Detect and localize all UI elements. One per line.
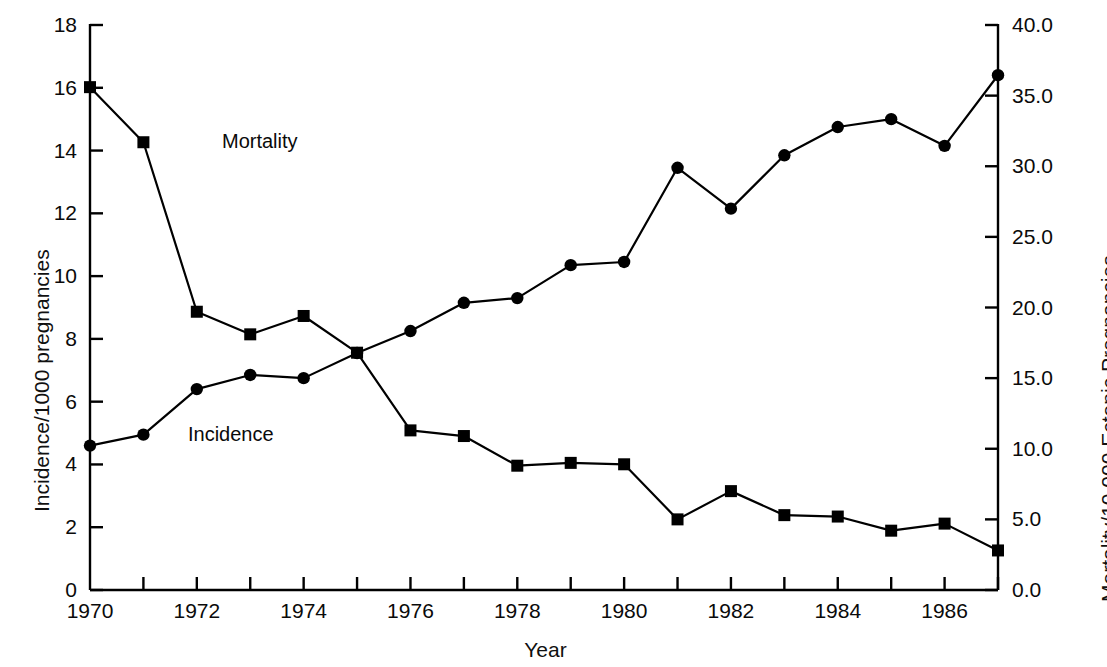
y2-tick-label: 30.0 xyxy=(1012,154,1053,177)
series-line-mortality xyxy=(90,87,998,550)
y-axis-right-title: Mortality/10,000 Ectopic Pregnancies xyxy=(1071,0,1107,667)
y2-tick-label: 0.0 xyxy=(1012,578,1041,601)
y-axis-left-ticks xyxy=(90,25,103,590)
series-label-incidence: Incidence xyxy=(188,423,274,445)
y2-tick-label: 40.0 xyxy=(1012,13,1053,36)
data-point-marker xyxy=(672,513,684,525)
data-point-marker xyxy=(725,202,737,214)
y2-tick-label: 5.0 xyxy=(1012,507,1041,530)
data-point-marker xyxy=(297,372,309,384)
data-point-marker xyxy=(351,347,363,359)
data-point-marker xyxy=(778,149,790,161)
y-tick-label: 12 xyxy=(54,201,77,224)
data-point-marker xyxy=(992,69,1004,81)
data-point-marker xyxy=(938,140,950,152)
data-point-marker xyxy=(404,424,416,436)
x-tick-label: 1972 xyxy=(173,599,220,622)
y-tick-label: 0 xyxy=(65,578,77,601)
x-tick-label: 1974 xyxy=(280,599,327,622)
data-point-marker xyxy=(84,81,96,93)
data-point-marker xyxy=(618,256,630,268)
data-point-marker xyxy=(885,525,897,537)
data-point-marker xyxy=(671,162,683,174)
y-tick-label: 2 xyxy=(65,515,77,538)
y2-tick-label: 35.0 xyxy=(1012,84,1053,107)
axis-lines xyxy=(90,24,998,590)
data-point-marker xyxy=(778,509,790,521)
data-point-marker xyxy=(84,439,96,451)
data-point-marker xyxy=(939,518,951,530)
data-point-marker xyxy=(191,306,203,318)
data-point-marker xyxy=(885,113,897,125)
data-point-marker xyxy=(725,485,737,497)
series-label-mortality: Mortality xyxy=(222,130,298,152)
data-point-marker xyxy=(511,292,523,304)
x-tick-label: 1984 xyxy=(814,599,861,622)
y2-tick-label: 10.0 xyxy=(1012,437,1053,460)
data-point-marker xyxy=(191,383,203,395)
y-tick-label: 16 xyxy=(54,76,77,99)
data-point-marker xyxy=(458,297,470,309)
x-tick-label: 1978 xyxy=(494,599,541,622)
data-point-marker xyxy=(511,460,523,472)
data-point-marker xyxy=(137,136,149,148)
x-axis-ticks xyxy=(143,577,998,590)
x-tick-label: 1976 xyxy=(387,599,434,622)
y-tick-label: 10 xyxy=(54,264,77,287)
data-point-marker xyxy=(137,428,149,440)
data-point-marker xyxy=(832,511,844,523)
y-axis-right-ticks xyxy=(985,25,998,590)
y-tick-label: 6 xyxy=(65,390,77,413)
data-point-marker xyxy=(458,430,470,442)
x-axis-tick-labels: 197019721974197619781980198219841986 xyxy=(67,599,968,622)
data-point-marker xyxy=(565,259,577,271)
x-axis-title: Year xyxy=(0,638,1107,662)
chart-figure: Incidence/1000 pregnancies Mortality/10,… xyxy=(0,0,1107,667)
y-axis-right-tick-labels: 0.05.010.015.020.025.030.035.040.0 xyxy=(1012,13,1053,601)
y2-tick-label: 25.0 xyxy=(1012,225,1053,248)
data-point-marker xyxy=(244,369,256,381)
y2-tick-label: 15.0 xyxy=(1012,366,1053,389)
y-tick-label: 18 xyxy=(54,13,77,36)
data-point-marker xyxy=(618,458,630,470)
x-tick-label: 1980 xyxy=(601,599,648,622)
data-point-marker xyxy=(244,328,256,340)
line-chart-plot: 024681012141618 0.05.010.015.020.025.030… xyxy=(0,0,1107,667)
y-axis-left-tick-labels: 024681012141618 xyxy=(54,13,78,601)
y-axis-left-title: Incidence/1000 pregnancies xyxy=(0,0,36,667)
data-point-marker xyxy=(298,310,310,322)
data-point-marker xyxy=(565,457,577,469)
y-tick-label: 4 xyxy=(65,452,77,475)
x-tick-label: 1982 xyxy=(708,599,755,622)
x-tick-label: 1970 xyxy=(67,599,114,622)
y-tick-label: 14 xyxy=(54,139,78,162)
data-point-marker xyxy=(832,121,844,133)
y-tick-label: 8 xyxy=(65,327,77,350)
x-tick-label: 1986 xyxy=(921,599,968,622)
data-point-marker xyxy=(992,544,1004,556)
y2-tick-label: 20.0 xyxy=(1012,296,1053,319)
data-point-marker xyxy=(404,325,416,337)
